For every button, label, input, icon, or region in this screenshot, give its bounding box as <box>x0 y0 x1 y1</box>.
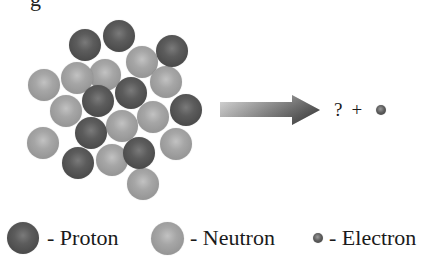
proton-ball <box>156 35 188 67</box>
neutron-ball <box>50 95 82 127</box>
neutron-ball <box>150 66 182 98</box>
proton-ball <box>123 137 155 169</box>
beta-decay-diagram: g ? + - Proton - Neutron <box>0 0 439 261</box>
legend-item-electron: - Electron <box>313 219 416 257</box>
neutron-icon <box>151 222 184 255</box>
legend-item-proton: - Proton <box>7 219 119 257</box>
proton-ball <box>103 20 135 52</box>
electron-icon <box>313 233 323 243</box>
proton-ball <box>170 94 202 126</box>
proton-ball <box>62 147 94 179</box>
neutron-ball <box>137 101 169 133</box>
electron-icon <box>376 105 386 115</box>
proton-ball <box>115 77 147 109</box>
legend-label-proton: - Proton <box>47 225 119 251</box>
proton-ball <box>69 29 101 61</box>
proton-icon <box>7 222 39 254</box>
reaction-arrow-icon <box>218 94 322 126</box>
proton-ball <box>82 85 114 117</box>
legend-label-neutron: - Neutron <box>190 225 275 251</box>
legend-label-electron: - Electron <box>329 225 416 251</box>
unknown-product: ? <box>334 99 342 121</box>
plus-sign: + <box>351 99 362 121</box>
decay-products: ? + <box>334 98 386 122</box>
neutron-ball <box>27 127 59 159</box>
nucleus <box>0 0 220 210</box>
neutron-ball <box>127 168 159 200</box>
neutron-ball <box>160 128 192 160</box>
legend-item-neutron: - Neutron <box>151 219 275 257</box>
neutron-ball <box>28 69 60 101</box>
legend: - Proton - Neutron - Electron <box>0 219 439 257</box>
proton-ball <box>75 117 107 149</box>
